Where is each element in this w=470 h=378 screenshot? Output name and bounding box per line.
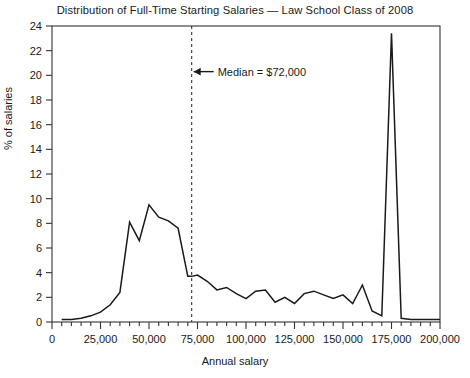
x-tick-label: 75,000 [181, 333, 215, 345]
x-tick-label: 125,000 [275, 333, 315, 345]
y-tick-label: 24 [30, 20, 42, 32]
chart-container: Distribution of Full-Time Starting Salar… [0, 0, 470, 378]
y-tick-label: 16 [30, 119, 42, 131]
median-label: Median = $72,000 [218, 66, 306, 78]
x-tick-label: 0 [49, 333, 55, 345]
x-axis-ticks: 025,00050,00075,000100,000125,000150,000… [49, 322, 460, 345]
x-tick-label: 200,000 [420, 333, 460, 345]
plot-area: 025,00050,00075,000100,000125,000150,000… [0, 0, 470, 378]
y-tick-label: 0 [36, 316, 42, 328]
x-tick-label: 50,000 [132, 333, 166, 345]
y-tick-label: 2 [36, 291, 42, 303]
median-annotation: Median = $72,000 [192, 26, 306, 322]
y-tick-label: 20 [30, 69, 42, 81]
y-tick-label: 12 [30, 168, 42, 180]
y-tick-label: 18 [30, 94, 42, 106]
y-tick-label: 8 [36, 217, 42, 229]
y-tick-label: 14 [30, 143, 42, 155]
y-tick-label: 4 [36, 267, 42, 279]
y-tick-label: 10 [30, 193, 42, 205]
x-tick-label: 175,000 [372, 333, 412, 345]
x-tick-label: 100,000 [226, 333, 266, 345]
y-axis-ticks: 024681012141618202224 [30, 20, 52, 328]
y-tick-label: 22 [30, 45, 42, 57]
x-tick-label: 150,000 [323, 333, 363, 345]
x-tick-label: 25,000 [84, 333, 118, 345]
y-tick-label: 6 [36, 242, 42, 254]
